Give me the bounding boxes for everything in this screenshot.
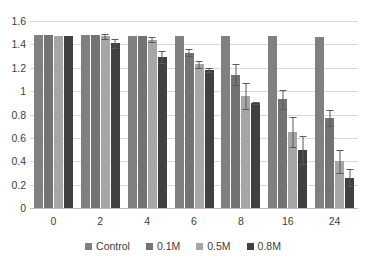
bar-wrapper bbox=[298, 21, 307, 208]
bar-wrapper bbox=[335, 21, 344, 208]
y-axis-tick-label: 0.4 bbox=[0, 155, 26, 167]
bar-wrapper bbox=[44, 21, 53, 208]
bar-wrapper bbox=[315, 21, 324, 208]
error-bar-cap bbox=[232, 64, 239, 65]
bar-wrapper bbox=[195, 21, 204, 208]
error-bar-cap bbox=[299, 164, 306, 165]
bar-group bbox=[77, 21, 124, 208]
bar-wrapper bbox=[64, 21, 73, 208]
error-bar-cap bbox=[299, 136, 306, 137]
bar bbox=[268, 36, 277, 208]
bar bbox=[54, 36, 63, 208]
bar bbox=[241, 96, 250, 208]
error-bar-cap bbox=[326, 126, 333, 127]
bar-wrapper bbox=[241, 21, 250, 208]
error-bar-cap bbox=[252, 104, 259, 105]
bar bbox=[195, 64, 204, 208]
y-axis-tick-label: 0.8 bbox=[0, 109, 26, 121]
x-axis-tick-labels: 024681624 bbox=[30, 210, 358, 232]
bar-chart: 00.20.40.60.811.21.41.6 024681624 Contro… bbox=[0, 0, 366, 267]
y-axis-tick-label: 1.4 bbox=[0, 38, 26, 50]
x-axis-tick-label: 2 bbox=[77, 210, 124, 232]
error-bar-cap bbox=[242, 83, 249, 84]
bar-group bbox=[30, 21, 77, 208]
bar bbox=[81, 35, 90, 208]
bar-wrapper bbox=[111, 21, 120, 208]
y-axis-tick-label: 1.6 bbox=[0, 15, 26, 27]
error-bar bbox=[115, 39, 116, 48]
bar-group bbox=[217, 21, 264, 208]
error-bar-cap bbox=[232, 85, 239, 86]
bar bbox=[138, 36, 147, 208]
error-bar-cap bbox=[102, 34, 109, 35]
error-bar-cap bbox=[196, 61, 203, 62]
bar-wrapper bbox=[268, 21, 277, 208]
legend-item[interactable]: 0.8M bbox=[247, 240, 281, 252]
bar-wrapper bbox=[251, 21, 260, 208]
error-bar-cap bbox=[279, 109, 286, 110]
y-axis-tick-label: 0.2 bbox=[0, 179, 26, 191]
error-bar-cap bbox=[149, 42, 156, 43]
bar bbox=[34, 35, 43, 208]
legend-item-label: 0.8M bbox=[258, 240, 281, 252]
y-axis-tick-label: 1.2 bbox=[0, 62, 26, 74]
x-axis-tick-label: 0 bbox=[30, 210, 77, 232]
bar bbox=[44, 35, 53, 208]
bar bbox=[325, 118, 334, 208]
bar-wrapper bbox=[231, 21, 240, 208]
bar bbox=[101, 36, 110, 208]
bar-wrapper bbox=[138, 21, 147, 208]
bar-wrapper bbox=[34, 21, 43, 208]
bar-group bbox=[311, 21, 358, 208]
bar-wrapper bbox=[81, 21, 90, 208]
bar-wrapper bbox=[148, 21, 157, 208]
bar-wrapper bbox=[205, 21, 214, 208]
x-axis-tick-label: 8 bbox=[217, 210, 264, 232]
bar bbox=[278, 99, 287, 208]
legend-swatch-icon bbox=[196, 243, 203, 250]
bar bbox=[91, 35, 100, 208]
error-bar-cap bbox=[186, 56, 193, 57]
bar-wrapper bbox=[221, 21, 230, 208]
bar-wrapper bbox=[278, 21, 287, 208]
y-axis-tick-label: 1 bbox=[0, 85, 26, 97]
legend-swatch-icon bbox=[146, 243, 153, 250]
bar-wrapper bbox=[54, 21, 63, 208]
legend-item-label: Control bbox=[96, 240, 130, 252]
error-bar bbox=[292, 117, 293, 147]
bar bbox=[111, 43, 120, 208]
error-bar bbox=[245, 83, 246, 109]
bar-wrapper bbox=[185, 21, 194, 208]
error-bar-cap bbox=[159, 63, 166, 64]
x-axis-tick-label: 6 bbox=[171, 210, 218, 232]
error-bar-cap bbox=[159, 51, 166, 52]
error-bar-cap bbox=[242, 109, 249, 110]
legend-item[interactable]: 0.1M bbox=[146, 240, 180, 252]
bar bbox=[315, 37, 324, 208]
bar bbox=[175, 36, 184, 208]
error-bar-cap bbox=[112, 39, 119, 40]
error-bar bbox=[189, 49, 190, 56]
legend-item[interactable]: 0.5M bbox=[196, 240, 230, 252]
error-bar bbox=[302, 136, 303, 164]
error-bar bbox=[235, 64, 236, 85]
x-axis-baseline bbox=[30, 208, 358, 209]
bar bbox=[231, 75, 240, 208]
legend-swatch-icon bbox=[247, 243, 254, 250]
error-bar-cap bbox=[279, 90, 286, 91]
error-bar-cap bbox=[336, 173, 343, 174]
bar bbox=[221, 36, 230, 208]
legend-item[interactable]: Control bbox=[85, 240, 130, 252]
bar bbox=[185, 53, 194, 208]
error-bar bbox=[282, 90, 283, 109]
bar-wrapper bbox=[91, 21, 100, 208]
error-bar bbox=[162, 51, 163, 63]
bar bbox=[64, 36, 73, 208]
x-axis-tick-label: 4 bbox=[124, 210, 171, 232]
error-bar-cap bbox=[149, 37, 156, 38]
bar bbox=[251, 103, 260, 208]
bar-wrapper bbox=[325, 21, 334, 208]
error-bar bbox=[329, 110, 330, 126]
x-axis-tick-label: 16 bbox=[264, 210, 311, 232]
bar-wrapper bbox=[128, 21, 137, 208]
